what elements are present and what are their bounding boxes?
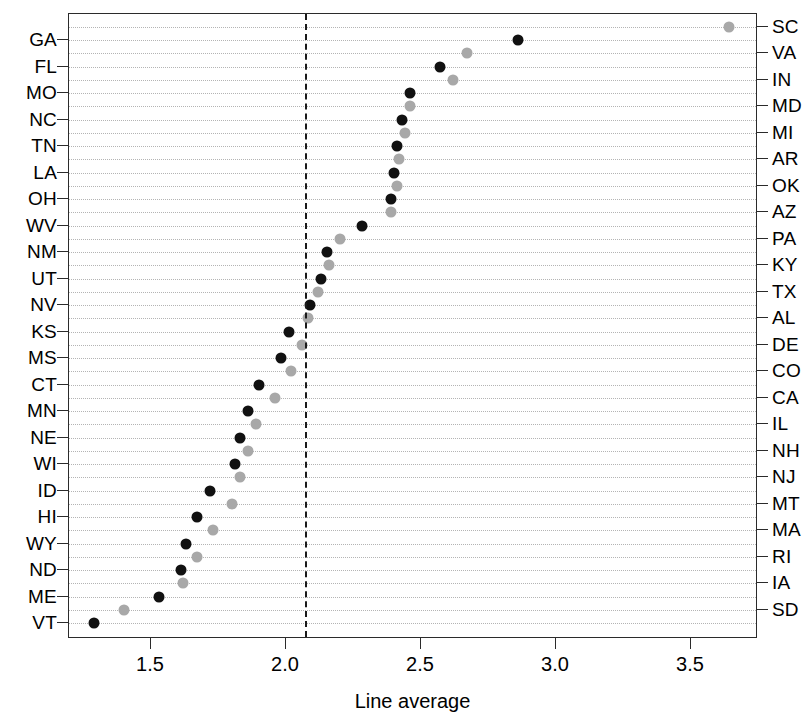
y-tick-left xyxy=(57,384,68,385)
y-axis-label-right: NH xyxy=(772,440,809,459)
data-point[interactable] xyxy=(229,459,240,470)
gridline xyxy=(69,623,756,624)
data-point[interactable] xyxy=(461,48,472,59)
data-point[interactable] xyxy=(119,604,130,615)
data-point[interactable] xyxy=(243,406,254,417)
y-axis-label-right: AR xyxy=(772,149,809,168)
data-point[interactable] xyxy=(227,498,238,509)
y-axis-label-left: NM xyxy=(1,242,57,261)
data-point[interactable] xyxy=(191,551,202,562)
data-point[interactable] xyxy=(313,286,324,297)
gridline xyxy=(69,252,756,253)
y-axis-right: SCVAINMDMIAROKAZPAKYTXALDECOCAILNHNJMTMA… xyxy=(772,0,809,724)
y-tick-left xyxy=(57,543,68,544)
data-point[interactable] xyxy=(405,88,416,99)
gridline xyxy=(69,279,756,280)
y-tick-left xyxy=(57,145,68,146)
y-tick-right xyxy=(757,423,768,424)
y-tick-left xyxy=(57,622,68,623)
data-point[interactable] xyxy=(723,22,734,33)
data-point[interactable] xyxy=(321,247,332,258)
y-tick-right xyxy=(757,529,768,530)
y-axis-label-left: MS xyxy=(1,348,57,367)
y-axis-label-right: CO xyxy=(772,361,809,380)
x-tick-label: 3.5 xyxy=(655,653,725,675)
gridline xyxy=(69,159,756,160)
y-tick-left xyxy=(57,278,68,279)
y-axis-label-right: MI xyxy=(772,122,809,141)
data-point[interactable] xyxy=(405,101,416,112)
gridline xyxy=(69,610,756,611)
data-point[interactable] xyxy=(335,233,346,244)
y-axis-label-left: NE xyxy=(1,427,57,446)
y-tick-right xyxy=(757,26,768,27)
data-point[interactable] xyxy=(448,74,459,85)
y-axis-label-left: KS xyxy=(1,321,57,340)
scatter-chart: GAFLMONCTNLAOHWVNMUTNVKSMSCTMNNEWIIDHIWY… xyxy=(0,0,809,724)
gridline xyxy=(69,120,756,121)
data-point[interactable] xyxy=(399,127,410,138)
y-tick-left xyxy=(57,172,68,173)
y-tick-left xyxy=(57,516,68,517)
y-axis-label-left: TN xyxy=(1,136,57,155)
data-point[interactable] xyxy=(89,618,100,629)
data-point[interactable] xyxy=(251,419,262,430)
gridline xyxy=(69,544,756,545)
data-point[interactable] xyxy=(397,114,408,125)
y-tick-right xyxy=(757,238,768,239)
data-point[interactable] xyxy=(286,366,297,377)
data-point[interactable] xyxy=(205,485,216,496)
data-point[interactable] xyxy=(391,141,402,152)
data-point[interactable] xyxy=(154,591,165,602)
data-point[interactable] xyxy=(434,61,445,72)
y-axis-label-left: VT xyxy=(1,613,57,632)
data-point[interactable] xyxy=(181,538,192,549)
gridline xyxy=(69,385,756,386)
data-point[interactable] xyxy=(191,512,202,523)
gridline xyxy=(69,570,756,571)
data-point[interactable] xyxy=(394,154,405,165)
y-tick-left xyxy=(57,251,68,252)
gridline xyxy=(69,477,756,478)
data-point[interactable] xyxy=(178,578,189,589)
data-point[interactable] xyxy=(356,220,367,231)
data-point[interactable] xyxy=(324,260,335,271)
y-axis-label-left: CT xyxy=(1,374,57,393)
data-point[interactable] xyxy=(208,525,219,536)
data-point[interactable] xyxy=(243,445,254,456)
data-point[interactable] xyxy=(275,353,286,364)
y-axis-label-left: WY xyxy=(1,533,57,552)
data-point[interactable] xyxy=(235,432,246,443)
y-tick-right xyxy=(757,397,768,398)
y-axis-label-left: NC xyxy=(1,109,57,128)
y-axis-label-left: ID xyxy=(1,480,57,499)
data-point[interactable] xyxy=(391,180,402,191)
y-axis-label-left: ME xyxy=(1,586,57,605)
gridline xyxy=(69,239,756,240)
gridline xyxy=(69,40,756,41)
data-point[interactable] xyxy=(513,35,524,46)
gridline xyxy=(69,305,756,306)
data-point[interactable] xyxy=(175,565,186,576)
x-tick-label: 2.0 xyxy=(250,653,320,675)
data-point[interactable] xyxy=(283,326,294,337)
data-point[interactable] xyxy=(316,273,327,284)
data-point[interactable] xyxy=(270,392,281,403)
reference-line xyxy=(305,14,307,637)
gridline xyxy=(69,464,756,465)
y-axis-label-right: DE xyxy=(772,334,809,353)
data-point[interactable] xyxy=(302,313,313,324)
data-point[interactable] xyxy=(386,194,397,205)
gridline xyxy=(69,491,756,492)
data-point[interactable] xyxy=(386,207,397,218)
y-tick-right xyxy=(757,52,768,53)
data-point[interactable] xyxy=(254,379,265,390)
x-tick-label: 3.0 xyxy=(520,653,590,675)
data-point[interactable] xyxy=(389,167,400,178)
y-tick-left xyxy=(57,569,68,570)
y-tick-right xyxy=(757,317,768,318)
data-point[interactable] xyxy=(235,472,246,483)
y-tick-left xyxy=(57,225,68,226)
y-axis-label-right: AL xyxy=(772,308,809,327)
y-tick-right xyxy=(757,503,768,504)
